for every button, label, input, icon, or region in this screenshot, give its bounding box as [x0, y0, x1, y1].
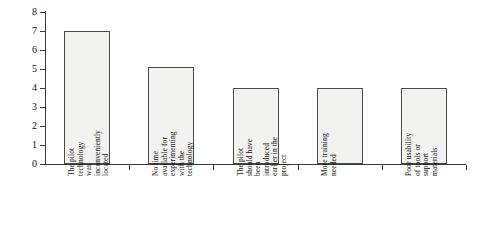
x-tick	[129, 165, 130, 170]
y-tick-label: 7	[15, 26, 37, 36]
y-tick-7	[40, 31, 45, 32]
x-tick	[382, 165, 383, 170]
y-tick-2	[40, 126, 45, 127]
x-tick	[298, 165, 299, 170]
x-tick	[213, 165, 214, 170]
category-label: More training needed	[321, 106, 338, 176]
category-label: The pilot technology was inconveniently …	[68, 106, 111, 176]
x-tick	[466, 165, 467, 170]
category-label: No time available for experimenting with…	[152, 106, 195, 176]
y-tick-label: 4	[15, 83, 37, 93]
y-tick-label: 6	[15, 45, 37, 55]
y-tick-0	[40, 164, 45, 165]
y-tick-label: 5	[15, 64, 37, 74]
y-tick-8	[40, 12, 45, 13]
y-tick-label: 1	[15, 140, 37, 150]
y-axis-line	[45, 11, 46, 165]
y-tick-label: 3	[15, 102, 37, 112]
category-label: The pilot should have been introduced ea…	[237, 106, 289, 176]
y-tick-label: 0	[15, 159, 37, 169]
y-tick-4	[40, 88, 45, 89]
bar-chart: 012345678 The pilot technology was incon…	[0, 0, 492, 245]
y-tick-5	[40, 69, 45, 70]
y-tick-label: 2	[15, 121, 37, 131]
y-tick-3	[40, 107, 45, 108]
category-label: Poor usability of tools or support mater…	[405, 106, 439, 176]
y-tick-label: 8	[15, 7, 37, 17]
y-tick-6	[40, 50, 45, 51]
y-tick-1	[40, 145, 45, 146]
